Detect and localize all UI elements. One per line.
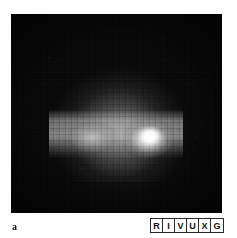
mid-halo-glow [47,50,185,182]
pixel-grid-overlay [11,14,222,213]
rivuxg-band-g: G [211,219,223,232]
figure-panel: a R I V U X G [0,0,237,238]
astronomical-image-plate [11,14,222,213]
core-peak [137,126,163,146]
rivuxg-band-x: X [199,219,211,232]
rivuxg-band-r: R [151,219,163,232]
detector-noise-layer [11,14,222,213]
rivuxg-band-u: U [187,219,199,232]
panel-label: a [12,221,17,232]
outer-halo-glow [31,32,203,200]
emission-band [49,110,183,158]
western-knot [63,118,121,156]
rivuxg-band-i: I [163,219,175,232]
rivuxg-band-v: V [175,219,187,232]
bright-core [123,116,181,160]
vignette-overlay [11,14,222,213]
rivuxg-wavelength-indicator: R I V U X G [150,218,224,233]
